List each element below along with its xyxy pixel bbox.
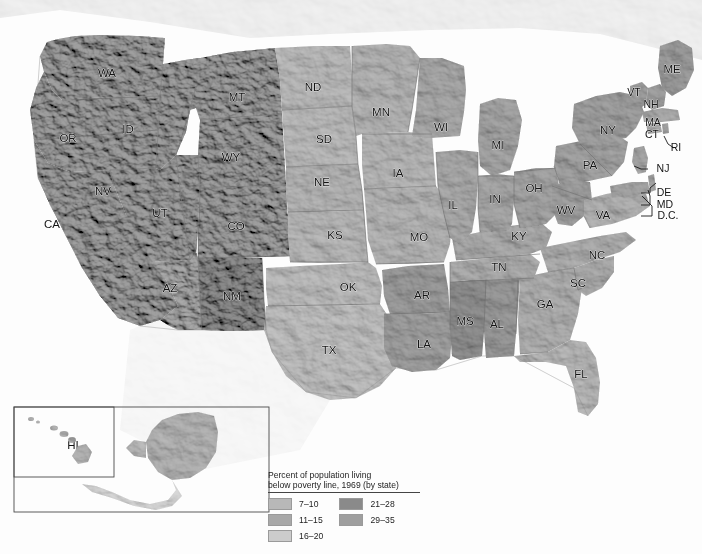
- state-label-VT: VT: [627, 86, 641, 98]
- state-label-LA: LA: [417, 338, 431, 350]
- state-label-NM: NM: [223, 290, 241, 302]
- state-label-CT: CT: [645, 128, 660, 140]
- state-label-NY: NY: [600, 124, 616, 136]
- state-label-OR: OR: [59, 132, 76, 144]
- state-label-VA: VA: [596, 209, 611, 221]
- state-MO: [364, 186, 452, 264]
- state-label-NV: NV: [95, 185, 111, 197]
- state-label-MT: MT: [229, 91, 246, 103]
- state-label-IA: IA: [393, 167, 404, 179]
- state-RI: [662, 123, 669, 134]
- legend-item: 29–35: [339, 514, 394, 526]
- legend-label: 16–20: [299, 531, 323, 541]
- state-label-NH: NH: [643, 98, 658, 110]
- legend-swatch: [268, 530, 292, 542]
- legend-item: 16–20: [268, 530, 323, 542]
- state-label-SD: SD: [316, 133, 332, 145]
- legend-swatch-rows: 7–10 11–15 16–20 21–28 29–35: [268, 498, 468, 542]
- state-label-CA: CA: [44, 218, 60, 230]
- state-label-AZ: AZ: [163, 282, 178, 294]
- map-legend: Percent of population living below pover…: [268, 470, 468, 542]
- state-OK: [266, 262, 382, 306]
- state-label-UT: UT: [152, 207, 167, 219]
- state-label-MI: MI: [492, 139, 505, 151]
- state-label-MA: MA: [645, 116, 661, 128]
- state-label-TX: TX: [322, 344, 337, 356]
- legend-item: 7–10: [268, 498, 323, 510]
- legend-label: 7–10: [299, 499, 319, 509]
- legend-title-line1: Percent of population living: [268, 470, 420, 480]
- state-label-SC: SC: [570, 277, 586, 289]
- state-label-PA: PA: [583, 159, 598, 171]
- state-label-MO: MO: [410, 231, 429, 243]
- state-MT: [185, 48, 282, 120]
- legend-column-right: 21–28 29–35: [339, 498, 394, 542]
- legend-title-line2: below poverty line, 1969 (by state): [268, 480, 420, 490]
- legend-title: Percent of population living below pover…: [268, 470, 420, 493]
- state-label-WI: WI: [434, 121, 448, 133]
- legend-label: 29–35: [370, 515, 394, 525]
- legend-label: 21–28: [370, 499, 394, 509]
- state-label-WY: WY: [222, 151, 241, 163]
- legend-swatch: [268, 498, 292, 510]
- state-label-IL: IL: [448, 199, 458, 211]
- state-label-GA: GA: [537, 298, 554, 310]
- legend-column-left: 7–10 11–15 16–20: [268, 498, 323, 542]
- state-label-AL: AL: [490, 318, 505, 330]
- state-label-WV: WV: [557, 204, 576, 216]
- legend-item: 21–28: [339, 498, 394, 510]
- state-label-CO: CO: [227, 220, 244, 232]
- state-label-DE: DE: [657, 186, 672, 198]
- state-label-NJ: NJ: [657, 162, 670, 174]
- state-label-OK: OK: [340, 281, 357, 293]
- state-label-OH: OH: [525, 182, 542, 194]
- legend-swatch: [339, 514, 363, 526]
- state-label-KY: KY: [511, 230, 527, 242]
- state-label-MS: MS: [456, 315, 474, 327]
- state-label-NE: NE: [314, 176, 330, 188]
- legend-swatch: [268, 514, 292, 526]
- state-label-ID: ID: [122, 123, 134, 135]
- legend-item: 11–15: [268, 514, 323, 526]
- state-label-ME: ME: [663, 63, 681, 75]
- legend-swatch: [339, 498, 363, 510]
- state-label-NC: NC: [589, 249, 606, 261]
- state-label-D.C.: D.C.: [658, 209, 679, 221]
- state-ND: [275, 46, 352, 110]
- state-label-IN: IN: [489, 193, 501, 205]
- state-label-AR: AR: [414, 289, 430, 301]
- state-label-MN: MN: [372, 106, 390, 118]
- state-IA: [362, 132, 436, 189]
- state-label-TN: TN: [491, 261, 506, 273]
- state-label-WA: WA: [98, 67, 116, 79]
- state-WY: [198, 114, 286, 188]
- state-label-FL: FL: [574, 368, 588, 380]
- legend-label: 11–15: [299, 515, 323, 525]
- state-label-KS: KS: [327, 229, 343, 241]
- state-label-ND: ND: [305, 81, 322, 93]
